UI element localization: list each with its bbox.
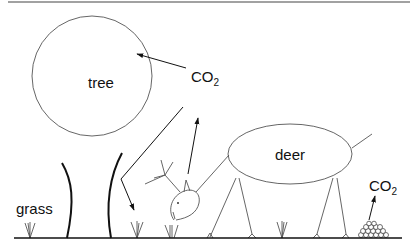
dung-pile <box>359 221 389 237</box>
deer-mouth <box>173 212 175 219</box>
tree-label: tree <box>88 74 114 91</box>
deer-tail <box>352 134 372 148</box>
deer: deer <box>145 124 372 238</box>
grass-tuft <box>277 221 287 238</box>
deer-head <box>171 190 200 220</box>
co2-air-label: CO2 <box>191 68 220 88</box>
co2-dung-label: CO2 <box>369 177 398 197</box>
deer-neck <box>196 155 229 192</box>
svg-text:CO2: CO2 <box>369 177 398 197</box>
grass-tuft <box>131 221 143 238</box>
grass-tuft <box>25 222 35 238</box>
grass-tuft <box>165 225 178 238</box>
deer-eye <box>177 202 179 204</box>
arrow-dung-to-co2 <box>369 196 375 220</box>
svg-text:CO2: CO2 <box>191 68 220 88</box>
tree-trunk-right <box>108 153 122 238</box>
grass <box>25 221 287 238</box>
grass-label: grass <box>16 200 53 217</box>
tree-trunk-left <box>62 163 72 238</box>
arrow-co2-to-tree <box>137 54 186 68</box>
deer-antlers <box>145 160 180 192</box>
deer-label: deer <box>275 146 305 163</box>
arrow-deer-to-co2 <box>188 118 198 174</box>
deer-legs <box>207 178 349 238</box>
carbon-cycle-diagram: tree CO2 deer <box>0 0 415 251</box>
